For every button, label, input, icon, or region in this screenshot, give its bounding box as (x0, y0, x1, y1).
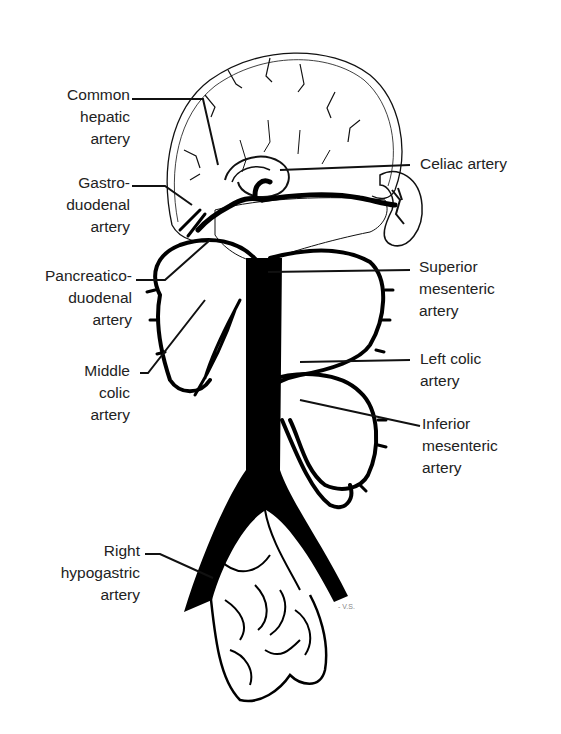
label-line: colic (20, 382, 130, 404)
label-middle-colic-artery: Middle colic artery (20, 360, 130, 426)
label-line: artery (0, 309, 132, 331)
label-line: hypogastric (20, 562, 140, 584)
label-line: Middle (20, 360, 130, 382)
label-line: artery (20, 584, 140, 606)
celiac-branches (180, 181, 395, 236)
label-line: artery (20, 216, 130, 238)
label-line: hepatic (20, 106, 130, 128)
label-line: Common (20, 84, 130, 106)
label-common-hepatic-artery: Common hepatic artery (20, 84, 130, 150)
spleen (380, 172, 422, 246)
label-line: artery (419, 300, 559, 322)
label-line: artery (20, 404, 130, 426)
label-right-hypogastric-artery: Right hypogastric artery (20, 540, 140, 606)
label-line: duodenal (20, 194, 130, 216)
label-celiac-artery: Celiac artery (420, 153, 560, 175)
stomach (167, 53, 402, 242)
label-inferior-mesenteric-artery: Inferior mesenteric artery (422, 413, 561, 479)
label-line: artery (20, 128, 130, 150)
label-line: artery (422, 457, 561, 479)
label-line: mesenteric (422, 435, 561, 457)
label-line: mesenteric (419, 278, 559, 300)
label-pancreaticoduodenal-artery: Pancreatico- duodenal artery (0, 265, 132, 331)
label-line: Left colic (420, 348, 560, 370)
label-left-colic-artery: Left colic artery (420, 348, 560, 392)
label-line: Inferior (422, 413, 561, 435)
label-line: Gastro- (20, 172, 130, 194)
label-line: Right (20, 540, 140, 562)
label-superior-mesenteric-artery: Superior mesenteric artery (419, 256, 559, 322)
label-line: artery (420, 370, 560, 392)
artist-signature: - V.S. (338, 603, 355, 610)
label-line: Pancreatico- (0, 265, 132, 287)
label-line: Celiac artery (420, 153, 560, 175)
label-line: Superior (419, 256, 559, 278)
label-gastroduodenal-artery: Gastro- duodenal artery (20, 172, 130, 238)
label-line: duodenal (0, 287, 132, 309)
